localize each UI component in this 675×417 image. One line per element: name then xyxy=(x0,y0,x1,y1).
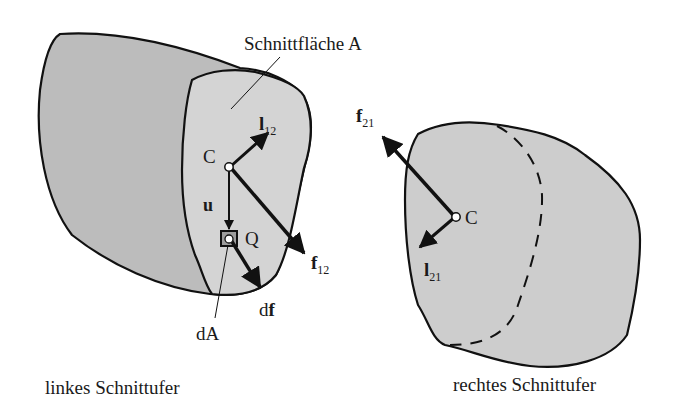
cut-surface-a xyxy=(182,70,311,295)
centroid-label-right: C xyxy=(465,207,478,228)
centroid-point-left xyxy=(225,163,233,171)
right-body: C f21 l21 xyxy=(356,105,640,367)
area-element-label: dA xyxy=(196,323,220,344)
force-element-df-label: df xyxy=(259,299,276,320)
right-body-outline xyxy=(405,122,640,366)
left-body: Schnittfläche A C u Q dA l12 f12 df xyxy=(39,33,362,344)
position-vector-label: u xyxy=(203,195,213,215)
left-body-caption: linkes Schnittufer xyxy=(45,377,180,398)
force-vector-f21-label: f21 xyxy=(356,105,374,130)
free-body-diagram: Schnittfläche A C u Q dA l12 f12 df C f2… xyxy=(0,0,675,417)
centroid-point-right xyxy=(452,213,460,221)
centroid-label-left: C xyxy=(203,146,216,167)
right-body-caption: rechtes Schnittufer xyxy=(453,374,597,395)
point-q-label: Q xyxy=(245,228,259,249)
force-vector-f12-label: f12 xyxy=(311,252,329,277)
point-q xyxy=(225,235,233,243)
cut-surface-label: Schnittfläche A xyxy=(244,33,362,54)
